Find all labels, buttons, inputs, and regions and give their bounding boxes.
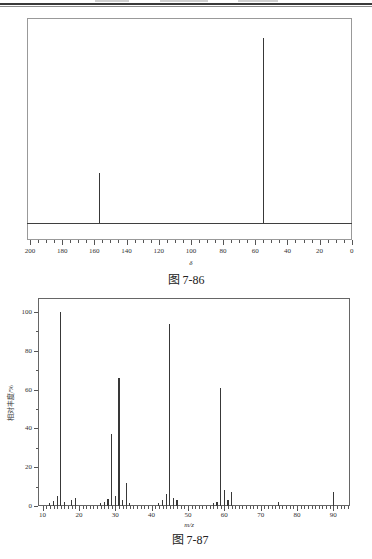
ms-x-minor-tick — [286, 506, 287, 509]
ms-x-minor-tick — [144, 506, 145, 509]
ms-peak — [115, 496, 116, 506]
ms-x-minor-tick — [308, 506, 309, 509]
ms-x-minor-tick — [199, 506, 200, 509]
ms-x-tick-label: 60 — [221, 511, 228, 519]
ms-peak — [173, 498, 174, 506]
ms-y-minor-tick — [36, 487, 39, 488]
ms-x-minor-tick — [130, 506, 131, 509]
ms-x-minor-tick — [159, 506, 160, 509]
ms-y-minor-tick — [36, 448, 39, 449]
ms-x-tick-label: 70 — [257, 511, 264, 519]
ms-x-minor-tick — [170, 506, 171, 509]
ms-x-minor-tick — [217, 506, 218, 509]
ms-x-minor-tick — [75, 506, 76, 509]
ms-y-tick-label: 100 — [18, 308, 32, 316]
ms-x-minor-tick — [206, 506, 207, 509]
ms-peak — [169, 324, 170, 506]
ms-x-minor-tick — [239, 506, 240, 509]
ms-x-minor-tick — [344, 506, 345, 509]
ms-y-tick-label: 40 — [18, 424, 32, 432]
ms-x-minor-tick — [272, 506, 273, 509]
ms-x-minor-tick — [83, 506, 84, 509]
ms-x-minor-tick — [68, 506, 69, 509]
ms-y-major-tick — [34, 390, 38, 391]
ms-x-minor-tick — [228, 506, 229, 509]
ms-x-minor-tick — [268, 506, 269, 509]
ms-x-minor-tick — [192, 506, 193, 509]
ms-x-minor-tick — [210, 506, 211, 509]
ms-x-minor-tick — [61, 506, 62, 509]
ms-x-minor-tick — [282, 506, 283, 509]
ms-x-minor-tick — [246, 506, 247, 509]
ms-x-minor-tick — [177, 506, 178, 509]
ms-x-minor-tick — [97, 506, 98, 509]
ms-x-minor-tick — [137, 506, 138, 509]
ms-x-minor-tick — [253, 506, 254, 509]
ms-x-minor-tick — [319, 506, 320, 509]
ms-x-minor-tick — [195, 506, 196, 509]
ms-peak — [111, 434, 112, 506]
ms-y-tick-label: 0 — [18, 502, 32, 510]
ms-x-minor-tick — [235, 506, 236, 509]
ms-x-minor-tick — [293, 506, 294, 509]
ms-x-minor-tick — [315, 506, 316, 509]
ms-peak — [60, 312, 61, 506]
ms-x-minor-tick — [46, 506, 47, 509]
ms-y-major-tick — [34, 312, 38, 313]
ms-x-minor-tick — [221, 506, 222, 509]
ms-x-minor-tick — [275, 506, 276, 509]
ms-x-axis-label: m/z — [184, 521, 194, 529]
ms-x-minor-tick — [264, 506, 265, 509]
ms-x-minor-tick — [64, 506, 65, 509]
ms-x-minor-tick — [112, 506, 113, 509]
ms-x-tick-label: 10 — [39, 511, 46, 519]
ms-x-minor-tick — [57, 506, 58, 509]
ms-y-tick-label: 60 — [18, 386, 32, 394]
ms-y-major-tick — [34, 506, 38, 507]
ms-x-minor-tick — [232, 506, 233, 509]
ms-x-minor-tick — [202, 506, 203, 509]
ms-plot-area: 102030405060708090020406080100 — [0, 0, 372, 559]
ms-x-minor-tick — [101, 506, 102, 509]
ms-x-minor-tick — [104, 506, 105, 509]
ms-x-minor-tick — [123, 506, 124, 509]
ms-x-minor-tick — [93, 506, 94, 509]
scanned-textbook-page: { "page": { "caption_nmr": "图 7-86", "ca… — [0, 0, 372, 559]
ms-peak — [224, 490, 225, 506]
ms-peak — [220, 388, 221, 506]
ms-x-minor-tick — [257, 506, 258, 509]
ms-figure-caption: 图 7-87 — [172, 533, 209, 547]
ms-x-minor-tick — [290, 506, 291, 509]
ms-y-axis-label: 相对丰度/% — [5, 373, 15, 433]
ms-peak — [166, 494, 167, 506]
ms-x-minor-tick — [173, 506, 174, 509]
ms-x-minor-tick — [86, 506, 87, 509]
ms-x-tick-label: 50 — [184, 511, 191, 519]
ms-x-minor-tick — [108, 506, 109, 509]
ms-x-tick-label: 20 — [75, 511, 82, 519]
ms-peak — [333, 492, 334, 506]
ms-x-tick-label: 90 — [330, 511, 337, 519]
ms-x-minor-tick — [119, 506, 120, 509]
ms-x-minor-tick — [330, 506, 331, 509]
ms-x-minor-tick — [155, 506, 156, 509]
ms-x-minor-tick — [337, 506, 338, 509]
ms-y-major-tick — [34, 351, 38, 352]
ms-x-minor-tick — [304, 506, 305, 509]
ms-x-minor-tick — [213, 506, 214, 509]
ms-y-major-tick — [34, 467, 38, 468]
ms-x-minor-tick — [141, 506, 142, 509]
ms-x-minor-tick — [341, 506, 342, 509]
ms-x-tick-label: 40 — [148, 511, 155, 519]
ms-x-minor-tick — [348, 506, 349, 509]
ms-y-major-tick — [34, 428, 38, 429]
ms-x-minor-tick — [166, 506, 167, 509]
ms-x-minor-tick — [126, 506, 127, 509]
ms-y-minor-tick — [36, 331, 39, 332]
ms-peak — [57, 496, 58, 506]
ms-x-tick-label: 80 — [293, 511, 300, 519]
ms-x-minor-tick — [54, 506, 55, 509]
ms-y-tick-label: 20 — [18, 463, 32, 471]
ms-x-minor-tick — [181, 506, 182, 509]
ms-peak — [231, 492, 232, 506]
